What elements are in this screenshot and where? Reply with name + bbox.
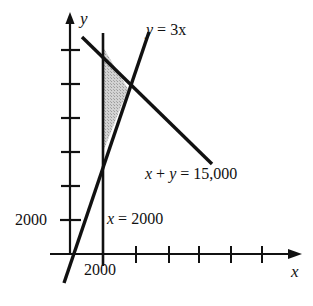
x-axis-tick-label-2000: 2000 <box>84 262 116 278</box>
graph-figure <box>0 0 313 306</box>
label-line-y-equals-3x: y = 3x <box>146 22 186 38</box>
y-axis-tick-label-2000: 2000 <box>15 212 47 228</box>
y-axis-label: y <box>80 10 88 27</box>
x-axis <box>50 249 302 259</box>
label-line-x-equals-2000: x = 2000 <box>107 211 163 227</box>
y-axis <box>65 12 74 254</box>
line-x-plus-y-equals-15000 <box>82 37 212 164</box>
label-line-x-plus-y: x + y = 15,000 <box>145 166 237 182</box>
x-axis-label: x <box>291 263 299 280</box>
